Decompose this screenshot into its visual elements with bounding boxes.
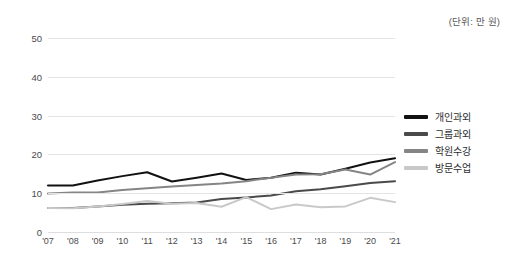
x-tick-label: '14 <box>216 236 228 246</box>
x-tick-label: '07 <box>42 236 54 246</box>
y-tick-label: 30 <box>2 110 42 121</box>
y-axis: 01020304050 <box>0 38 42 232</box>
series-line <box>48 158 395 185</box>
grid-line <box>48 193 395 194</box>
x-tick-label: '13 <box>191 236 203 246</box>
x-tick-label: '10 <box>116 236 128 246</box>
legend-swatch-icon <box>404 149 428 153</box>
legend-item[interactable]: 그룹과외 <box>404 125 510 142</box>
unit-caption: (단위: 만 원) <box>449 14 500 28</box>
y-tick-label: 50 <box>2 33 42 44</box>
legend-item-label: 학원수강 <box>435 143 471 158</box>
legend-item-label: 개인과외 <box>435 109 471 124</box>
series-lines <box>48 38 395 232</box>
legend-item[interactable]: 개인과외 <box>404 108 510 125</box>
chart-container: (단위: 만 원) 01020304050 '07'08'09'10'11'12… <box>0 0 514 264</box>
legend-item-label: 그룹과외 <box>435 126 471 141</box>
x-tick-label: '17 <box>290 236 302 246</box>
legend-item[interactable]: 학원수강 <box>404 142 510 159</box>
x-axis: '07'08'09'10'11'12'13'14'15'16'17'18'19'… <box>48 236 395 254</box>
x-tick-label: '16 <box>265 236 277 246</box>
y-tick-label: 10 <box>2 188 42 199</box>
chart-legend: 개인과외그룹과외학원수강방문수업 <box>404 108 510 176</box>
y-tick-label: 20 <box>2 149 42 160</box>
axis-baseline <box>48 232 395 233</box>
legend-swatch-icon <box>404 115 428 119</box>
grid-line <box>48 116 395 117</box>
legend-swatch-icon <box>404 166 428 170</box>
x-tick-label: '08 <box>67 236 79 246</box>
grid-line <box>48 154 395 155</box>
series-line <box>48 162 395 193</box>
x-tick-label: '09 <box>92 236 104 246</box>
x-tick-label: '20 <box>364 236 376 246</box>
grid-line <box>48 77 395 78</box>
plot-area <box>48 38 395 232</box>
y-tick-label: 0 <box>2 227 42 238</box>
legend-item[interactable]: 방문수업 <box>404 159 510 176</box>
legend-swatch-icon <box>404 132 428 136</box>
x-tick-label: '11 <box>142 236 153 246</box>
x-tick-label: '12 <box>166 236 178 246</box>
x-tick-label: '21 <box>389 236 401 246</box>
x-tick-label: '19 <box>340 236 352 246</box>
series-line <box>48 181 395 208</box>
legend-item-label: 방문수업 <box>435 160 471 175</box>
y-tick-label: 40 <box>2 71 42 82</box>
x-tick-label: '15 <box>240 236 252 246</box>
x-tick-label: '18 <box>315 236 327 246</box>
grid-line <box>48 38 395 39</box>
